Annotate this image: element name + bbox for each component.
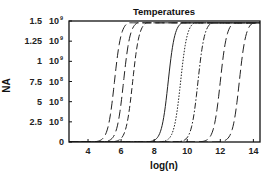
- y-tick-exponent: 8: [60, 116, 63, 122]
- y-tick-exponent: 8: [60, 76, 63, 82]
- y-tick-mantissa: 7.5: [29, 77, 42, 87]
- y-tick-exponent: 9: [60, 55, 63, 61]
- y-tick-exponent: 9: [60, 15, 63, 21]
- chart-title: Temperatures: [133, 6, 195, 17]
- y-tick-mantissa: 5: [37, 97, 42, 107]
- y-axis-ticks: 02.510851087.510811091.251091.5109: [24, 15, 72, 147]
- y-tick-base: 10: [49, 56, 59, 66]
- x-tick-label: 12: [215, 146, 225, 156]
- y-tick-base: 10: [49, 97, 59, 107]
- y-tick-mantissa: 1.25: [24, 36, 42, 46]
- temperatures-chart: Temperatures 468101214 02.510851087.5108…: [0, 0, 272, 177]
- y-tick-base: 10: [49, 77, 59, 87]
- y-tick-mantissa: 1.5: [29, 16, 42, 26]
- y-tick-base: 10: [49, 36, 59, 46]
- y-tick-label: 0: [59, 137, 64, 147]
- y-tick-base: 10: [49, 117, 59, 127]
- x-tick-label: 8: [152, 146, 157, 156]
- data-series: [69, 23, 260, 142]
- x-axis-label: log(n): [150, 160, 178, 171]
- series-curve-5: [69, 23, 260, 142]
- x-tick-label: 10: [182, 146, 192, 156]
- x-tick-label: 4: [86, 146, 91, 156]
- y-tick-base: 10: [49, 16, 59, 26]
- plot-frame: [69, 21, 260, 142]
- x-tick-label: 14: [248, 146, 258, 156]
- x-tick-label: 6: [119, 146, 124, 156]
- y-tick-exponent: 8: [60, 96, 63, 102]
- series-curve-1: [69, 23, 260, 142]
- series-curve-8: [69, 23, 260, 142]
- series-curve-4: [69, 23, 260, 142]
- series-curve-6: [69, 23, 260, 142]
- y-tick-mantissa: 2.5: [29, 117, 42, 127]
- y-tick-exponent: 9: [60, 35, 63, 41]
- series-curve-7: [69, 23, 260, 142]
- series-curve-3: [69, 23, 260, 142]
- series-curve-2: [69, 23, 260, 142]
- y-tick-mantissa: 1: [37, 56, 42, 66]
- y-axis-label: NA: [1, 78, 12, 92]
